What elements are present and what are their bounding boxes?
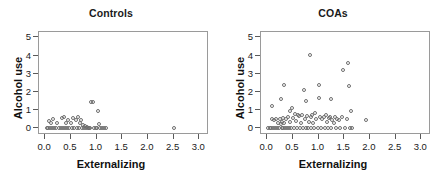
- data-point: [51, 117, 55, 121]
- y-tick-mark: [255, 73, 260, 74]
- x-tick-mark: [44, 134, 45, 139]
- data-point: [313, 111, 317, 115]
- x-tick-mark: [318, 134, 319, 139]
- data-point: [91, 100, 95, 104]
- y-tick-label: 1: [0, 103, 31, 114]
- y-tick-label: 0: [222, 121, 253, 132]
- data-point: [364, 118, 368, 122]
- data-point: [299, 121, 303, 125]
- data-point: [96, 109, 100, 113]
- y-tick-label: 2: [222, 85, 253, 96]
- data-point: [329, 97, 333, 101]
- data-point: [343, 126, 347, 130]
- data-point: [349, 109, 353, 113]
- data-point: [332, 121, 336, 125]
- y-tick-mark: [33, 73, 38, 74]
- panel-controls: Controls Alcohol use Externalizing 01234…: [0, 0, 222, 188]
- y-tick-label: 5: [222, 31, 253, 42]
- data-point: [62, 115, 66, 119]
- data-point: [340, 115, 344, 119]
- y-tick-mark: [255, 109, 260, 110]
- y-tick-mark: [33, 36, 38, 37]
- data-point: [282, 83, 286, 87]
- data-point: [346, 61, 350, 65]
- x-tick-mark: [292, 134, 293, 139]
- x-tick-mark: [70, 134, 71, 139]
- data-point: [329, 126, 333, 130]
- data-point: [341, 68, 345, 72]
- data-point: [350, 126, 354, 130]
- x-axis-label-controls: Externalizing: [0, 158, 222, 170]
- data-point: [104, 126, 108, 130]
- data-point: [270, 104, 274, 108]
- data-point: [347, 84, 351, 88]
- data-point: [345, 117, 349, 121]
- y-tick-mark: [255, 127, 260, 128]
- y-tick-label: 5: [0, 31, 31, 42]
- data-point: [286, 115, 290, 119]
- x-tick-mark: [96, 134, 97, 139]
- panel-coas: COAs Alcohol use Externalizing 0123450.0…: [222, 0, 444, 188]
- data-point: [308, 53, 312, 57]
- data-point: [79, 118, 83, 122]
- y-tick-mark: [33, 127, 38, 128]
- y-tick-label: 4: [222, 49, 253, 60]
- x-tick-mark: [198, 134, 199, 139]
- y-tick-label: 1: [222, 103, 253, 114]
- data-point: [294, 119, 298, 123]
- x-tick-mark: [395, 134, 396, 139]
- data-point: [325, 120, 329, 124]
- data-point: [302, 88, 306, 92]
- data-point: [304, 99, 308, 103]
- x-tick-mark: [147, 134, 148, 139]
- y-tick-label: 3: [222, 67, 253, 78]
- x-tick-label: 3.0: [183, 141, 213, 152]
- data-point: [279, 97, 283, 101]
- x-tick-mark: [173, 134, 174, 139]
- x-tick-mark: [420, 134, 421, 139]
- y-tick-label: 3: [0, 67, 31, 78]
- data-point: [338, 126, 342, 130]
- y-tick-label: 0: [0, 121, 31, 132]
- x-tick-mark: [266, 134, 267, 139]
- data-point: [290, 106, 294, 110]
- x-tick-mark: [121, 134, 122, 139]
- data-point: [49, 121, 53, 125]
- plot-area-coas: [260, 31, 430, 134]
- x-tick-label: 3.0: [405, 141, 435, 152]
- data-point: [282, 121, 286, 125]
- data-point: [69, 121, 73, 125]
- x-tick-mark: [369, 134, 370, 139]
- data-point: [317, 96, 321, 100]
- plot-area-controls: [38, 31, 208, 134]
- y-tick-mark: [33, 55, 38, 56]
- y-tick-mark: [255, 55, 260, 56]
- data-point: [288, 120, 292, 124]
- x-tick-mark: [343, 134, 344, 139]
- y-tick-mark: [33, 91, 38, 92]
- y-tick-mark: [255, 36, 260, 37]
- y-tick-mark: [33, 109, 38, 110]
- data-point: [311, 121, 315, 125]
- data-point: [172, 126, 176, 130]
- y-tick-label: 4: [0, 49, 31, 60]
- x-axis-label-coas: Externalizing: [222, 158, 444, 170]
- data-point: [317, 83, 321, 87]
- scatter-plot-figure: Controls Alcohol use Externalizing 01234…: [0, 0, 445, 188]
- y-tick-mark: [255, 91, 260, 92]
- data-point: [55, 121, 59, 125]
- y-tick-label: 2: [0, 85, 31, 96]
